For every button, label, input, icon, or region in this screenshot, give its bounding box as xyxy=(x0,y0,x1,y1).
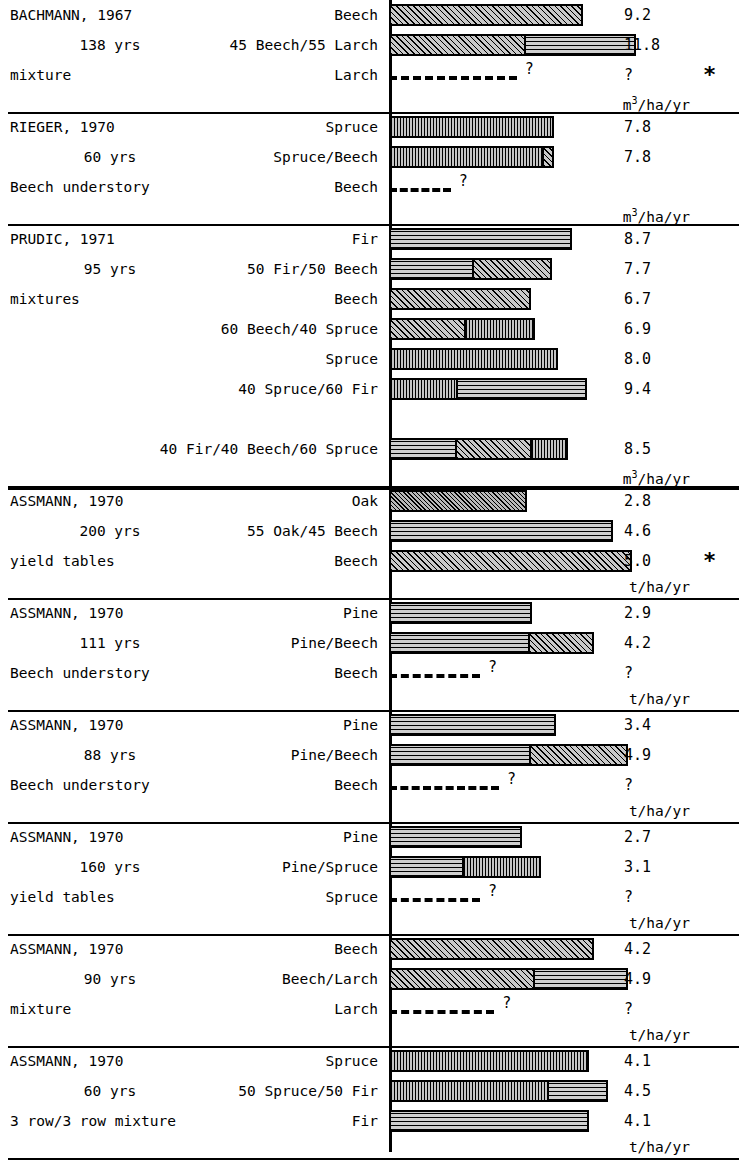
bar-row: RIEGER, 1970Spruce7.8 xyxy=(0,112,747,142)
bar-value-label: 4.1 xyxy=(624,1046,684,1076)
bar-row: 60 yrs50 Spruce/50 Fir4.5 xyxy=(0,1076,747,1106)
bar-value-label: ? xyxy=(624,770,684,800)
bar-row: Beech understoryBeech?? xyxy=(0,770,747,800)
bar-row: 111 yrsPine/Beech4.2 xyxy=(0,628,747,658)
panel-separator xyxy=(8,112,739,114)
units-label: t/ha/yr xyxy=(560,1024,690,1046)
stacked-bar xyxy=(389,34,636,56)
units-row: m3/ha/yr xyxy=(0,202,747,224)
stacked-bar xyxy=(389,1050,589,1072)
bar-row: ASSMANN, 1970Spruce4.1 xyxy=(0,1046,747,1076)
stacked-bar xyxy=(389,632,594,654)
plot-area xyxy=(389,628,747,658)
stacked-bar xyxy=(389,4,583,26)
bar-row: 160 yrsPine/Spruce3.1 xyxy=(0,852,747,882)
species-label: Beech xyxy=(140,172,378,202)
plot-area xyxy=(389,852,747,882)
bar-value-label: 4.2 xyxy=(624,628,684,658)
plot-area xyxy=(389,964,747,994)
plot-area: ? xyxy=(389,994,747,1024)
bar-row: Beech understoryBeech?? xyxy=(0,658,747,688)
plot-area xyxy=(389,822,747,852)
bar-row: ASSMANN, 1970Pine2.9 xyxy=(0,598,747,628)
panel-separator xyxy=(8,710,739,712)
spacer-row xyxy=(0,404,747,434)
bar-row: yield tablesBeech5.0* xyxy=(0,546,747,576)
stacked-bar xyxy=(389,146,554,168)
bar-value-label: 2.8 xyxy=(624,486,684,516)
bar-value-label: 6.7 xyxy=(624,284,684,314)
bar-segment xyxy=(391,380,456,398)
unknown-dashed-bar xyxy=(389,76,517,80)
units-row: t/ha/yr xyxy=(0,576,747,598)
species-label: Pine xyxy=(140,598,378,628)
bar-segment xyxy=(391,320,464,338)
bar-row: 200 yrs55 Oak/45 Beech4.6 xyxy=(0,516,747,546)
units-row: t/ha/yr xyxy=(0,912,747,934)
study-panel: ASSMANN, 1970Oak2.8200 yrs55 Oak/45 Beec… xyxy=(0,486,747,598)
species-label: Spruce/Beech xyxy=(140,142,378,172)
plot-area xyxy=(389,740,747,770)
units-row: m3/ha/yr xyxy=(0,464,747,486)
bar-segment xyxy=(391,828,520,846)
species-label: Beech xyxy=(140,770,378,800)
unknown-question-mark: ? xyxy=(525,54,534,84)
panel-separator xyxy=(8,1046,739,1048)
unknown-question-mark: ? xyxy=(502,988,511,1018)
bar-segment xyxy=(542,148,552,166)
unknown-dashed-bar xyxy=(389,898,480,902)
unknown-dashed-bar xyxy=(389,786,499,790)
species-label: Oak xyxy=(140,486,378,516)
species-label: 45 Beech/55 Larch xyxy=(140,30,378,60)
plot-area xyxy=(389,1046,747,1076)
bar-row: BACHMANN, 1967Beech9.2 xyxy=(0,0,747,30)
bar-row: ASSMANN, 1970Beech4.2 xyxy=(0,934,747,964)
bar-segment xyxy=(391,350,556,368)
plot-area xyxy=(389,344,747,374)
bar-segment xyxy=(391,1082,547,1100)
plot-area xyxy=(389,434,747,464)
units-label: t/ha/yr xyxy=(560,1136,690,1158)
bar-row: 138 yrs45 Beech/55 Larch11.8 xyxy=(0,30,747,60)
plot-area xyxy=(389,30,747,60)
study-panel: ASSMANN, 1970Spruce4.160 yrs50 Spruce/50… xyxy=(0,1046,747,1158)
bar-segment xyxy=(528,634,592,652)
species-label: Pine/Beech xyxy=(140,740,378,770)
species-label: Fir xyxy=(140,224,378,254)
unknown-question-mark: ? xyxy=(507,764,516,794)
species-label: 40 Spruce/60 Fir xyxy=(140,374,378,404)
species-label: Spruce xyxy=(140,344,378,374)
stacked-bar xyxy=(389,1080,608,1102)
plot-area: ? xyxy=(389,770,747,800)
stacked-bar xyxy=(389,288,531,310)
plot-area xyxy=(389,934,747,964)
bar-segment xyxy=(391,858,462,876)
bar-row: mixtureLarch??* xyxy=(0,60,747,90)
bar-value-label: 11.8 xyxy=(624,30,684,60)
bar-segment xyxy=(547,1082,606,1100)
plot-area xyxy=(389,112,747,142)
panel-separator xyxy=(8,822,739,824)
plot-area xyxy=(389,1076,747,1106)
species-label: Beech/Larch xyxy=(140,964,378,994)
plot-area xyxy=(389,314,747,344)
bar-row: yield tablesSpruce?? xyxy=(0,882,747,912)
unknown-question-mark: ? xyxy=(459,166,468,196)
stacked-bar xyxy=(389,116,554,138)
stacked-bar xyxy=(389,744,628,766)
bar-row: ASSMANN, 1970Pine3.4 xyxy=(0,710,747,740)
bar-segment xyxy=(391,36,524,54)
bar-segment xyxy=(530,440,566,458)
bar-row: Beech understoryBeech? xyxy=(0,172,747,202)
stacked-bar xyxy=(389,856,541,878)
bar-value-label: 3.4 xyxy=(624,710,684,740)
species-label: 55 Oak/45 Beech xyxy=(140,516,378,546)
bar-value-label: ? xyxy=(624,60,684,90)
plot-area xyxy=(389,374,747,404)
stacked-bar xyxy=(389,1110,589,1132)
bar-value-label: 6.9 xyxy=(624,314,684,344)
study-panel: ASSMANN, 1970Pine2.9111 yrsPine/Beech4.2… xyxy=(0,598,747,710)
plot-area xyxy=(389,486,747,516)
bar-value-label: 7.7 xyxy=(624,254,684,284)
